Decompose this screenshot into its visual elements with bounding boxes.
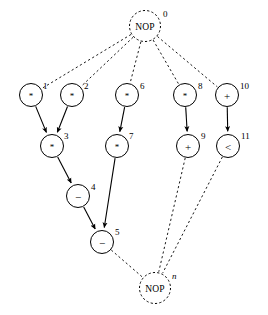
edge-n1-to-n3 (36, 106, 47, 132)
node-index-label-n10: 10 (240, 81, 250, 91)
dag-diagram-canvas: NOP0*1*2*6*8+10*3*7+9<11−4−5NOPn (0, 0, 268, 315)
edge-nop0-to-n2 (81, 37, 133, 86)
node-operator-nop0: NOP (135, 22, 155, 32)
node-index-label-nopn: n (172, 271, 177, 281)
node-5[interactable]: −5 (91, 227, 121, 254)
node-index-label-n1: 1 (43, 81, 48, 91)
edge-n9-to-nopn (159, 158, 185, 272)
node-9[interactable]: +9 (177, 131, 207, 158)
node-index-label-n7: 7 (129, 131, 134, 141)
node-operator-n6: * (125, 91, 130, 101)
node-operator-nopn: NOP (145, 284, 165, 294)
edge-nop0-to-n8 (153, 40, 178, 84)
edge-n6-to-n7 (120, 107, 125, 132)
node-operator-n4: − (75, 191, 81, 203)
edge-n2-to-n3 (57, 106, 67, 132)
node-2[interactable]: *2 (61, 81, 89, 107)
node-operator-n11: < (225, 141, 231, 153)
node-n[interactable]: NOPn (140, 271, 178, 304)
node-index-label-nop0: 0 (163, 9, 168, 19)
edge-n3-to-n4 (58, 157, 72, 183)
edge-layer (36, 34, 228, 277)
node-operator-n10: + (224, 90, 230, 102)
edge-nop0-to-n10 (157, 36, 217, 86)
node-operator-n2: * (70, 91, 75, 101)
node-layer: NOP0*1*2*6*8+10*3*7+9<11−4−5NOPn (20, 9, 250, 304)
edge-n4-to-n5 (84, 207, 96, 229)
node-index-label-n9: 9 (201, 131, 206, 141)
edge-nop0-to-n6 (130, 42, 141, 83)
node-6[interactable]: *6 (116, 81, 146, 107)
node-8[interactable]: *8 (174, 81, 204, 107)
node-operator-n3: * (50, 142, 55, 152)
node-operator-n9: + (185, 141, 191, 153)
edge-n5-to-nopn (111, 250, 142, 277)
node-index-label-n8: 8 (198, 81, 203, 91)
node-operator-n5: − (99, 237, 105, 249)
node-3[interactable]: *3 (41, 131, 70, 158)
edge-n7-to-n5 (104, 158, 115, 227)
node-index-label-n11: 11 (241, 131, 250, 141)
node-operator-n8: * (183, 91, 188, 101)
node-1[interactable]: *1 (20, 81, 48, 107)
node-index-label-n6: 6 (140, 81, 145, 91)
node-index-label-n4: 4 (91, 182, 96, 192)
node-0[interactable]: NOP0 (130, 9, 169, 42)
edge-n8-to-n9 (186, 107, 187, 131)
node-operator-n7: * (115, 142, 120, 152)
node-index-label-n2: 2 (84, 81, 89, 91)
node-4[interactable]: −4 (67, 182, 97, 208)
node-index-label-n5: 5 (115, 227, 120, 237)
dag-diagram-svg: NOP0*1*2*6*8+10*3*7+9<11−4−5NOPn (0, 0, 268, 315)
node-10[interactable]: +10 (216, 81, 250, 107)
node-index-label-n3: 3 (64, 131, 69, 141)
node-operator-n1: * (29, 91, 34, 101)
node-7[interactable]: *7 (106, 131, 135, 158)
node-11[interactable]: <11 (217, 131, 250, 158)
